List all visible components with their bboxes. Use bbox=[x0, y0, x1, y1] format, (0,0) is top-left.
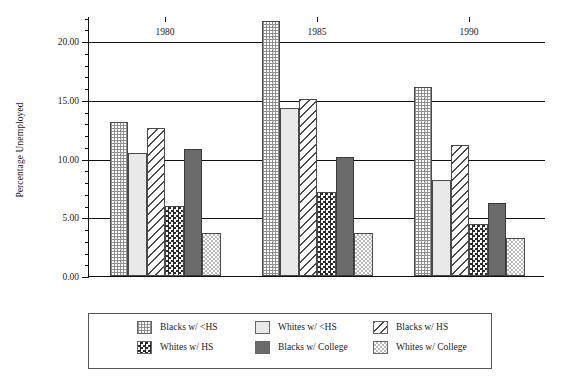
y-axis-minor-tick bbox=[85, 89, 89, 90]
legend-item: Blacks w/ <HS bbox=[137, 321, 255, 334]
legend-item-label: Blacks w/ HS bbox=[396, 323, 448, 333]
bar bbox=[165, 206, 184, 276]
y-axis-tick-label: 15.00 bbox=[58, 96, 79, 106]
bar bbox=[280, 108, 299, 276]
legend-grid: Blacks w/ <HSWhites w/ <HSBlacks w/ HSWh… bbox=[89, 321, 491, 354]
bar-chart-figure: Percentage Unemployed 0.005.0010.0015.00… bbox=[0, 0, 568, 384]
y-axis-major-tick bbox=[82, 101, 89, 102]
legend-item-label: Whites w/ <HS bbox=[278, 323, 337, 333]
y-axis-minor-tick bbox=[85, 254, 89, 255]
y-axis-title-text: Percentage Unemployed bbox=[15, 102, 25, 197]
y-axis-major-tick bbox=[82, 277, 89, 278]
y-axis-title: Percentage Unemployed bbox=[8, 70, 32, 230]
y-axis-minor-tick bbox=[85, 171, 89, 172]
x-axis-tick-label: 1990 bbox=[460, 27, 479, 37]
y-axis-major-tick bbox=[82, 160, 89, 161]
bar bbox=[110, 122, 129, 276]
bar bbox=[262, 21, 281, 276]
x-axis-tick bbox=[165, 17, 166, 22]
y-axis-major-tick bbox=[82, 42, 89, 43]
plot-inner: 0.005.0010.0015.0020.00198019851990 bbox=[89, 17, 544, 276]
legend-item: Blacks w/ College bbox=[255, 341, 373, 354]
plot-area: 0.005.0010.0015.0020.00198019851990 bbox=[88, 17, 544, 277]
legend-swatch bbox=[137, 321, 152, 334]
bar bbox=[414, 87, 433, 276]
y-axis-minor-tick bbox=[85, 265, 89, 266]
y-axis-minor-tick bbox=[85, 148, 89, 149]
bar bbox=[451, 145, 470, 276]
bar bbox=[184, 149, 203, 276]
legend-item: Whites w/ HS bbox=[137, 341, 255, 354]
y-axis-minor-tick bbox=[85, 77, 89, 78]
y-axis-minor-tick bbox=[85, 113, 89, 114]
legend-swatch bbox=[137, 341, 152, 354]
y-axis-minor-tick bbox=[85, 66, 89, 67]
gridline bbox=[89, 42, 545, 43]
legend-swatch bbox=[373, 341, 388, 354]
bar bbox=[147, 128, 166, 276]
y-axis-minor-tick bbox=[85, 19, 89, 20]
legend-item: Blacks w/ HS bbox=[373, 321, 491, 334]
bar bbox=[432, 180, 451, 276]
bar bbox=[299, 99, 318, 276]
bar bbox=[354, 233, 373, 276]
legend-swatch bbox=[255, 321, 270, 334]
bar bbox=[336, 157, 355, 276]
y-axis-minor-tick bbox=[85, 124, 89, 125]
y-axis-tick-label: 0.00 bbox=[62, 272, 79, 282]
x-axis-tick bbox=[317, 17, 318, 22]
bar bbox=[202, 233, 221, 276]
y-axis-tick-label: 10.00 bbox=[58, 155, 79, 165]
y-axis-minor-tick bbox=[85, 207, 89, 208]
legend-item: Whites w/ College bbox=[373, 341, 491, 354]
y-axis-minor-tick bbox=[85, 242, 89, 243]
bar bbox=[128, 153, 147, 276]
y-axis-tick-label: 20.00 bbox=[58, 37, 79, 47]
legend-swatch bbox=[373, 321, 388, 334]
y-axis-minor-tick bbox=[85, 54, 89, 55]
legend-item-label: Whites w/ HS bbox=[160, 343, 213, 353]
y-axis-tick-label: 5.00 bbox=[62, 213, 79, 223]
y-axis-minor-tick bbox=[85, 230, 89, 231]
bar bbox=[488, 203, 507, 276]
legend-swatch bbox=[255, 341, 270, 354]
y-axis-minor-tick bbox=[85, 30, 89, 31]
legend-item-label: Blacks w/ <HS bbox=[160, 323, 218, 333]
y-axis-minor-tick bbox=[85, 183, 89, 184]
x-axis-tick-label: 1985 bbox=[308, 27, 327, 37]
y-axis-major-tick bbox=[82, 218, 89, 219]
y-axis-minor-tick bbox=[85, 136, 89, 137]
bar bbox=[317, 192, 336, 277]
y-axis-minor-tick bbox=[85, 195, 89, 196]
bar bbox=[469, 224, 488, 276]
x-axis-tick bbox=[469, 17, 470, 22]
x-axis-tick-label: 1980 bbox=[156, 27, 175, 37]
bar bbox=[506, 238, 525, 276]
legend-item: Whites w/ <HS bbox=[255, 321, 373, 334]
chart-legend: Blacks w/ <HSWhites w/ <HSBlacks w/ HSWh… bbox=[88, 313, 492, 369]
legend-item-label: Whites w/ College bbox=[396, 343, 467, 353]
gridline bbox=[89, 101, 545, 102]
legend-item-label: Blacks w/ College bbox=[278, 343, 348, 353]
